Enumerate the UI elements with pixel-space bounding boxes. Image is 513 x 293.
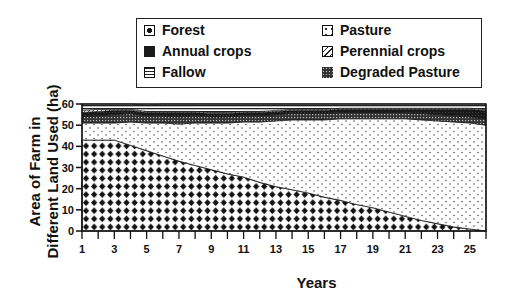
legend-item-degraded-pasture: Degraded Pasture (322, 64, 460, 80)
legend-item-forest: Forest (144, 22, 205, 38)
legend: ForestPastureAnnual cropsPerennial crops… (136, 18, 482, 88)
x-tick-label: 19 (367, 243, 379, 255)
legend-label: Degraded Pasture (340, 64, 460, 80)
y-axis-title-line: Different Land Used (ha) (44, 84, 61, 258)
x-tick-label: 13 (270, 243, 282, 255)
y-axis-title-line: Area of Farm in (26, 116, 43, 226)
x-tick-label: 5 (144, 243, 150, 255)
x-tick-label: 1 (79, 243, 85, 255)
y-tick-label: 30 (62, 162, 74, 174)
x-tick-label: 7 (176, 243, 182, 255)
x-tick-label: 9 (208, 243, 214, 255)
x-tick-label: 15 (302, 243, 314, 255)
y-tick-label: 60 (62, 98, 74, 110)
legend-label: Forest (162, 22, 205, 38)
y-tick-label: 50 (62, 119, 74, 131)
dark-pattern-swatch-icon (144, 46, 155, 57)
legend-label: Perennial crops (340, 43, 445, 59)
diamonds-pattern-swatch-icon (144, 25, 155, 36)
legend-item-perennial-crops: Perennial crops (322, 43, 445, 59)
x-tick-label: 23 (431, 243, 443, 255)
y-axis-title: Area of Farm inDifferent Land Used (ha) (26, 84, 61, 258)
hlines-pattern-swatch-icon (144, 67, 155, 78)
y-tick-label: 0 (68, 225, 74, 237)
legend-item-annual-crops: Annual crops (144, 43, 251, 59)
y-tick-label: 20 (62, 183, 74, 195)
x-tick-label: 11 (238, 243, 250, 255)
legend-label: Pasture (340, 22, 391, 38)
y-tick-label: 40 (62, 140, 74, 152)
legend-item-fallow: Fallow (144, 64, 206, 80)
x-tick-label: 25 (464, 243, 476, 255)
y-tick-label: 10 (62, 204, 74, 216)
legend-item-pasture: Pasture (322, 22, 391, 38)
diagonal-pattern-swatch-icon (322, 46, 333, 57)
crosshatch-pattern-swatch-icon (322, 67, 333, 78)
x-tick-label: 21 (399, 243, 411, 255)
legend-label: Annual crops (162, 43, 251, 59)
x-tick-label: 3 (111, 243, 117, 255)
area-layers (82, 104, 486, 231)
x-axis-title: Years (60, 274, 513, 291)
x-tick-label: 17 (334, 243, 346, 255)
legend-label: Fallow (162, 64, 206, 80)
dots-pattern-swatch-icon (322, 25, 333, 36)
